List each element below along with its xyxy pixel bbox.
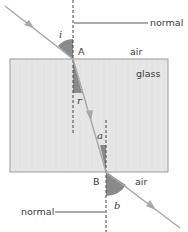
normal-label-bottom: normal [21, 206, 54, 217]
angle-b-label: b [114, 200, 120, 211]
normal-label-top: normal [150, 17, 183, 28]
point-b-label: B [93, 176, 100, 187]
glass-label: glass [136, 68, 160, 79]
point-a-label: A [78, 46, 85, 57]
angle-i-label: i [59, 29, 62, 40]
ray-arrow-emergent [146, 200, 156, 210]
air-label-bottom: air [135, 176, 147, 187]
refraction-diagram: normal normal A B air air glass i r a b [0, 0, 188, 232]
air-label-top: air [130, 46, 142, 57]
angle-a-label: a [97, 130, 103, 141]
